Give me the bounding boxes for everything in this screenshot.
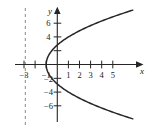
x-tick-label--3: −3 <box>19 70 28 80</box>
x-tick-label-4: 4 <box>100 70 105 80</box>
x-tick-label-1: 1 <box>66 70 70 80</box>
x-tick-label-5: 5 <box>111 70 115 80</box>
y-tick-label--4: −4 <box>44 87 54 97</box>
y-tick-label-6: 6 <box>46 18 50 28</box>
y-axis-name: y <box>47 6 52 16</box>
parabola-figure: −3 −1 1 2 3 4 5 6 4 −2 −4 −6 x y <box>0 0 154 131</box>
chart-canvas: −3 −1 1 2 3 4 5 6 4 −2 −4 −6 x y <box>0 0 154 131</box>
y-tick-label--6: −6 <box>44 101 53 111</box>
chart-background <box>0 0 154 131</box>
x-axis-name: x <box>139 66 144 76</box>
x-tick-label-2: 2 <box>77 70 81 80</box>
x-tick-label-3: 3 <box>88 70 92 80</box>
